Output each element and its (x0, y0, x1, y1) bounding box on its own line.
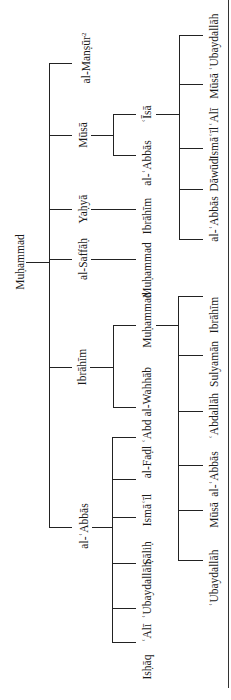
connector-isa-ubaydallah (179, 35, 203, 36)
node-abbas-ubaydallah: ʿUbaydallāh (141, 562, 153, 619)
connector-muhammad-abbas (178, 465, 203, 466)
connector-root (26, 262, 49, 263)
node-isa: ʿĪsā (141, 105, 153, 122)
connector-ibrahim-in (49, 367, 72, 368)
connector-musa-isa (113, 114, 136, 115)
node-muhammad-child-1: ʿUbaydallāh (208, 550, 220, 607)
connector-abbas-ali (112, 608, 136, 609)
connector-musa-out (91, 135, 113, 136)
connector-isa-out (156, 114, 179, 115)
bracket-isa (179, 35, 180, 206)
node-abbas-ali: ʿAlī (141, 624, 153, 643)
node-saffah-muhammad: Muḥammad (141, 242, 153, 298)
node-isa-child-6: ʿUbaydallāh (208, 14, 220, 71)
node-isa-child-5: Mūsā (208, 73, 220, 99)
node-musa: Mūsā (77, 122, 89, 148)
node-al-mansur: al-Manṣūr2 (78, 33, 93, 84)
connector-saffah-in (49, 259, 72, 260)
node-muhammad-child-3: al-ʿAbbās (208, 451, 220, 496)
connector-yahya-out (91, 209, 136, 210)
connector-abbas-ubaydallah (112, 563, 136, 564)
node-yahya: Yaḥyā (77, 195, 89, 224)
trunk-gen1 (49, 63, 50, 528)
node-musa-al-abbas: al-ʿAbbās (141, 140, 153, 185)
node-ibrahim-muhammad: Muḥammad (141, 292, 153, 348)
node-muhammad-child-5: Sulyamān (208, 341, 220, 387)
connector-isa-musa (179, 84, 203, 85)
connector-muhammad-ibrahim (178, 296, 203, 297)
connector-saffah-out (91, 259, 136, 260)
connector-yahya-in (49, 209, 72, 210)
family-tree-diagram: Muḥammad al-Manṣūr2 Mūsā Yaḥyā al-Saffāḥ… (0, 0, 231, 700)
bracket-ibrahim (113, 325, 114, 408)
connector-muhammad-sulyaman (178, 355, 203, 356)
node-abbas-ismail: Ismāʿīl (141, 494, 153, 527)
node-root-muhammad: Muḥammad (14, 234, 26, 290)
page-edge-rule (228, 0, 229, 688)
connector-ibrahim-muhammad (113, 325, 136, 326)
node-yahya-ibrahim: Ibrāhīm (141, 198, 153, 234)
connector-muhammad-abdallah (178, 411, 203, 412)
connector-ibrahim-abdalwahhab (113, 407, 136, 408)
connector-abbas-ishaq (112, 642, 136, 643)
connector-musa-in (49, 135, 72, 136)
connector-abbas-out (92, 527, 112, 528)
connector-musa-abbas (113, 155, 136, 156)
connector-muhammad-ubaydallah (178, 560, 203, 561)
connector-abbas-in (49, 527, 72, 528)
node-abbas-fadl: al-Faḍl (141, 446, 153, 479)
connector-abbas-fadl (112, 437, 136, 438)
node-isa-child-4: ʿAlī (208, 108, 220, 127)
node-muhammad-child-2: Mūsā (208, 502, 220, 528)
connector-abbas-salih (112, 517, 136, 518)
connector-ibrahim-out (90, 367, 113, 368)
connector-isa-dawud (179, 189, 203, 190)
bracket-musa (113, 114, 114, 155)
connector-abbas-ismail (112, 479, 136, 480)
node-isa-child-1: al-ʿAbbās (208, 196, 220, 241)
connector-muhammad-musa (178, 510, 203, 511)
node-muhammad-child-4: ʿAbdallāh (208, 393, 220, 439)
node-isa-child-3: Ismāʿīl (208, 127, 220, 160)
node-muhammad-child-6: Ibrāhīm (208, 297, 220, 333)
connector-mansur (49, 63, 72, 64)
node-ibrahim: Ibrāhīm (76, 349, 88, 385)
node-isa-child-2: Dāwūd (208, 158, 220, 191)
node-al-abbas: al-ʿAbbās (78, 503, 90, 548)
connector-muhammad-out (156, 325, 178, 326)
bracket-abbas (112, 437, 113, 643)
node-al-saffah: al-Saffāḥ (77, 238, 89, 280)
bracket-isa-ext (179, 189, 180, 240)
connector-isa-ismail (179, 148, 203, 149)
connector-isa-abbas (179, 239, 203, 240)
node-abd-al-wahhab: ʿAbd al-Wahhāb (141, 367, 153, 443)
node-abbas-ishaq: Isḥāq (141, 655, 153, 680)
bracket-muhammad (178, 296, 179, 560)
footnote-marker: 2 (80, 33, 88, 37)
